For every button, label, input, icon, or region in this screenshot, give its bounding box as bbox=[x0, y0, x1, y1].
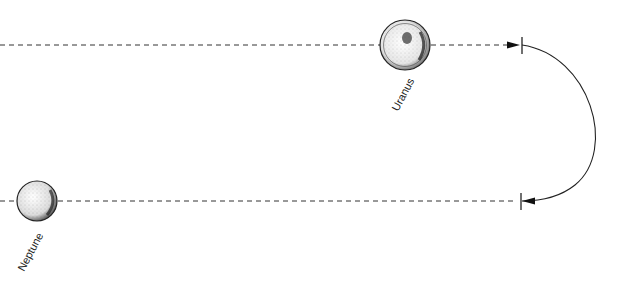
planet-label: Uranus bbox=[389, 76, 416, 113]
planet-neptune: Neptune bbox=[15, 181, 57, 273]
top-trajectory bbox=[0, 37, 522, 54]
arrow-right-icon bbox=[507, 42, 520, 49]
planet-label: Neptune bbox=[15, 231, 45, 273]
turnaround-arc bbox=[522, 45, 595, 201]
bottom-trajectory bbox=[0, 193, 535, 210]
planet-uranus: Uranus bbox=[380, 20, 430, 113]
orbit-diagram: Uranus Neptune bbox=[0, 0, 630, 284]
arrow-left-icon bbox=[522, 198, 535, 205]
